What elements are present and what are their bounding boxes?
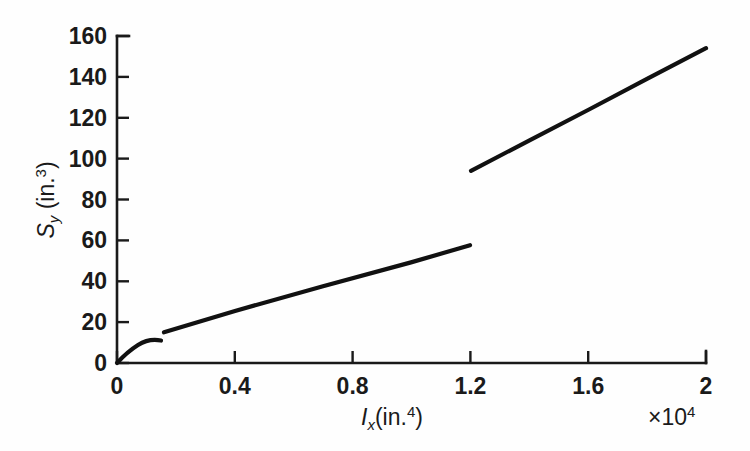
x-axis-unit: (in.	[375, 404, 407, 430]
x-axis-unit-exponent: 4	[407, 403, 415, 420]
x-axis-ticks	[117, 351, 706, 363]
y-tick-labels: 0 20 40 60 80 100 120 140 160	[69, 23, 107, 376]
data-curve-segment-3	[471, 48, 706, 171]
y-tick-label-20: 20	[81, 309, 107, 335]
y-tick-label-80: 80	[81, 187, 107, 213]
y-axis-title-group: Sy (in.3)	[32, 161, 62, 238]
x-axis-unit-close: )	[415, 404, 423, 430]
plot-canvas: 0 20 40 60 80 100 120 140 160 0 0.4 0.8 …	[0, 0, 750, 451]
x-axis-multiplier-exponent: 4	[687, 403, 695, 420]
x-axis-title-group: Ix(in.4)	[361, 403, 423, 433]
y-axis-ticks	[117, 36, 129, 363]
y-tick-label-100: 100	[69, 146, 107, 172]
y-axis-symbol: S	[33, 223, 59, 239]
x-tick-label-0.4: 0.4	[219, 373, 251, 399]
y-axis-unit: (in.	[33, 177, 59, 209]
y-tick-label-40: 40	[81, 268, 107, 294]
x-tick-labels: 0 0.4 0.8 1.2 1.6 2	[111, 373, 713, 399]
data-series-group	[117, 48, 706, 363]
axis-spine-path	[117, 36, 706, 363]
x-axis-multiplier-base: ×10	[648, 404, 687, 430]
x-axis-multiplier-group: ×104	[648, 403, 695, 430]
x-tick-label-2: 2	[700, 373, 713, 399]
x-axis-multiplier: ×104	[648, 403, 695, 430]
y-tick-label-120: 120	[69, 105, 107, 131]
axes-spines	[117, 36, 706, 363]
data-curve-segment-1	[117, 340, 161, 363]
y-tick-label-0: 0	[94, 350, 107, 376]
x-tick-label-1.2: 1.2	[454, 373, 486, 399]
y-tick-label-160: 160	[69, 23, 107, 49]
y-tick-label-140: 140	[69, 64, 107, 90]
x-axis-title: Ix(in.4)	[361, 403, 423, 433]
y-axis-title: Sy (in.3)	[32, 161, 62, 238]
y-tick-label-60: 60	[81, 227, 107, 253]
x-tick-label-0.8: 0.8	[337, 373, 369, 399]
x-tick-label-0: 0	[111, 373, 124, 399]
chart-figure: 0 20 40 60 80 100 120 140 160 0 0.4 0.8 …	[0, 0, 750, 451]
y-axis-unit-close: )	[33, 161, 59, 169]
data-curve-segment-2	[164, 245, 470, 332]
x-tick-label-1.6: 1.6	[572, 373, 604, 399]
y-axis-unit-exponent: 3	[32, 169, 49, 177]
